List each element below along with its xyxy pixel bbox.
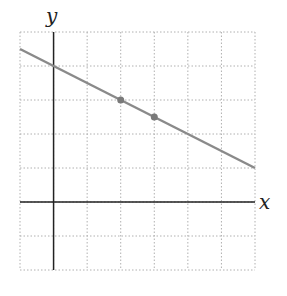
- y-axis-label: y: [45, 4, 58, 28]
- series-line: [20, 49, 255, 168]
- x-axis-label: x: [259, 190, 270, 214]
- data-point: [117, 97, 124, 104]
- data-point: [151, 114, 158, 121]
- line-chart: x y: [0, 0, 287, 296]
- data-line: [20, 49, 255, 168]
